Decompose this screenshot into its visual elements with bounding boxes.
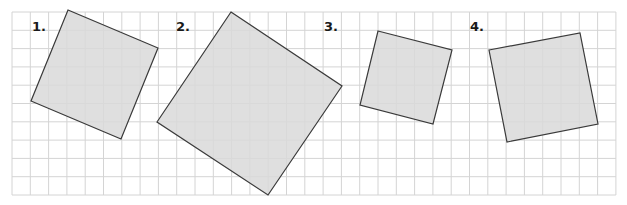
label-3: 3. <box>324 19 338 34</box>
label-1: 1. <box>32 19 46 34</box>
squares <box>31 10 598 195</box>
square-2 <box>157 12 342 195</box>
grid-diagram: 1. 2. 3. 4. <box>0 0 627 205</box>
square-4 <box>489 33 598 142</box>
label-4: 4. <box>470 19 484 34</box>
square-1 <box>31 10 158 139</box>
label-2: 2. <box>176 19 190 34</box>
square-3 <box>360 31 452 124</box>
